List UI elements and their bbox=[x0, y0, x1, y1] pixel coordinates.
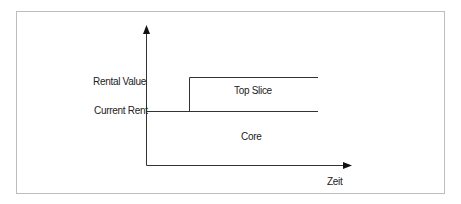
current-rent-label: Current Rent bbox=[94, 105, 148, 116]
x-axis-arrow-icon bbox=[343, 162, 352, 169]
x-axis-label: Zeit bbox=[327, 176, 342, 187]
core-label: Core bbox=[241, 131, 261, 142]
rental-value-label: Rental Value bbox=[93, 76, 146, 87]
y-axis-arrow-icon bbox=[143, 25, 150, 34]
diagram-lines bbox=[0, 0, 461, 204]
top-slice-label: Top Slice bbox=[234, 85, 272, 96]
